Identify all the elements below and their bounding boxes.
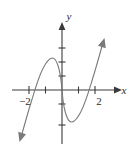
graph-figure: x y −2 2 [0,0,137,150]
coordinate-plane-graph: x y −2 2 [0,0,137,150]
curve-right-arrow-icon [98,38,106,48]
x-tick-label-positive-two: 2 [96,95,102,107]
x-tick-label-negative-two: −2 [19,95,31,107]
y-axis-label: y [66,10,72,22]
curve-left-arrow-icon [18,132,26,142]
y-axis-arrow-icon [59,22,66,30]
x-axis-label: x [121,84,127,96]
